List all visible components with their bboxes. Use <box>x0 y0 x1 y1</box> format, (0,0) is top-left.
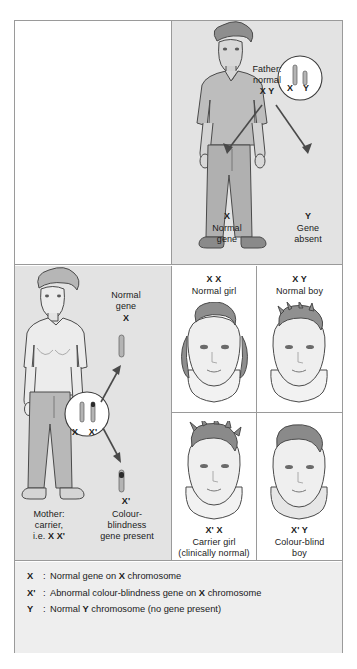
mother-gamete-affected-line3: gene present <box>87 531 167 541</box>
mother-gamete-affected-line2: blindness <box>91 520 163 530</box>
mother-label-line3: i.e. X X' <box>17 531 81 541</box>
mother-label-prefix: i.e. <box>33 531 48 541</box>
father-gamete-y-line1: Gene <box>281 223 335 233</box>
legend-row: Y : Normal Y chromosome (no gene present… <box>27 604 342 615</box>
mother-panel: Normal gene X X X' X' Colour- blindness … <box>15 266 172 561</box>
father-gamete-x-line2: gene <box>200 234 254 244</box>
offspring-panel-carrier-girl: X' X Carrier girl (clinically normal) <box>172 413 257 561</box>
legend-key: X <box>27 571 43 581</box>
father-panel: Father: normal X Y X Y X Normal gene Y G… <box>172 21 342 265</box>
father-circle-label-x: X <box>282 83 298 93</box>
father-gamete-y-symbol: Y <box>283 211 333 221</box>
mother-gamete-affected-symbol: X' <box>97 496 155 506</box>
legend-colon: : <box>43 604 50 614</box>
legend-text-part: chromosome <box>205 588 261 598</box>
boy-portrait-icon <box>257 302 342 410</box>
offspring-genotype: X Y <box>257 274 342 284</box>
mother-gamete-chromosomes <box>119 335 124 492</box>
offspring-description-line1: Normal girl <box>172 286 256 296</box>
father-label-line1: Father: <box>244 64 290 74</box>
mother-gamete-affected-line1: Colour- <box>91 509 163 519</box>
mother-circle-label-x-prime: X' <box>83 427 103 437</box>
legend-text-part: chromosome <box>125 571 181 581</box>
legend-colon: : <box>43 588 50 598</box>
legend-panel: X : Normal gene on X chromosome X' : Abn… <box>15 562 342 653</box>
mother-label-line1: Mother: <box>17 509 81 519</box>
legend-text: Abnormal colour-blindness gene on X chro… <box>50 588 342 599</box>
father-gamete-y-line2: absent <box>281 234 335 244</box>
blank-panel <box>15 21 172 265</box>
legend-row: X : Normal gene on X chromosome <box>27 571 342 582</box>
mother-genotype: X X' <box>48 531 65 541</box>
mother-gamete-normal-line2: gene <box>97 301 155 311</box>
legend-text-part: Normal <box>50 604 83 614</box>
legend-key: Y <box>27 604 43 614</box>
legend-text-part: Abnormal colour-blindness gene on <box>50 588 199 598</box>
offspring-genotype: X X <box>172 274 256 284</box>
offspring-genotype: X' Y <box>257 525 342 535</box>
legend-colon: : <box>43 571 50 581</box>
offspring-description-line2: (clinically normal) <box>170 548 258 558</box>
offspring-genotype: X' X <box>172 525 256 535</box>
mother-label-line2: carrier, <box>17 520 81 530</box>
father-circle-label-y: Y <box>298 83 314 93</box>
boy-portrait-icon <box>257 421 342 525</box>
offspring-panel-normal-girl: X X Normal girl <box>172 266 257 413</box>
legend-text-part: chromosome (no gene present) <box>89 604 221 614</box>
mother-circle-label-x: X <box>67 427 83 437</box>
offspring-description-line2: boy <box>257 548 342 558</box>
offspring-panel-colour-blind-boy: X' Y Colour-blind boy <box>257 413 342 561</box>
father-gamete-x-symbol: X <box>202 211 252 221</box>
legend-key: X' <box>27 588 43 598</box>
offspring-description-line1: Colour-blind <box>257 537 342 547</box>
girl-portrait-icon <box>172 302 257 410</box>
legend-text-part: Normal gene on <box>50 571 119 581</box>
offspring-description-line1: Carrier girl <box>172 537 256 547</box>
girl-portrait-icon <box>172 421 257 525</box>
father-gamete-x-line1: Normal <box>200 223 254 233</box>
mother-gamete-normal-line1: Normal <box>97 290 155 300</box>
legend-text: Normal Y chromosome (no gene present) <box>50 604 342 615</box>
mother-gamete-normal-symbol: X <box>97 313 155 323</box>
offspring-description-line1: Normal boy <box>257 286 342 296</box>
legend-row: X' : Abnormal colour-blindness gene on X… <box>27 588 342 599</box>
inheritance-diagram: Father: normal X Y X Y X Normal gene Y G… <box>14 20 343 653</box>
legend-text: Normal gene on X chromosome <box>50 571 342 582</box>
offspring-panel-normal-boy: X Y Normal boy <box>257 266 342 413</box>
